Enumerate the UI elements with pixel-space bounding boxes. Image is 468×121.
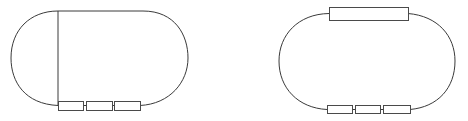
- left-component-1: [59, 102, 84, 111]
- left-component-3: [115, 102, 141, 111]
- left-loop: [11, 11, 188, 111]
- right-component-2: [356, 106, 381, 114]
- right-top-component: [330, 8, 409, 21]
- left-component-2: [87, 102, 113, 111]
- right-loop: [279, 8, 455, 114]
- right-component-1: [328, 106, 353, 114]
- right-component-3: [384, 106, 411, 114]
- left-loop-wire: [11, 11, 188, 106]
- right-loop-wire-left: [279, 14, 329, 110]
- right-loop-wire-right: [408, 14, 455, 110]
- diagram-canvas: [0, 0, 468, 121]
